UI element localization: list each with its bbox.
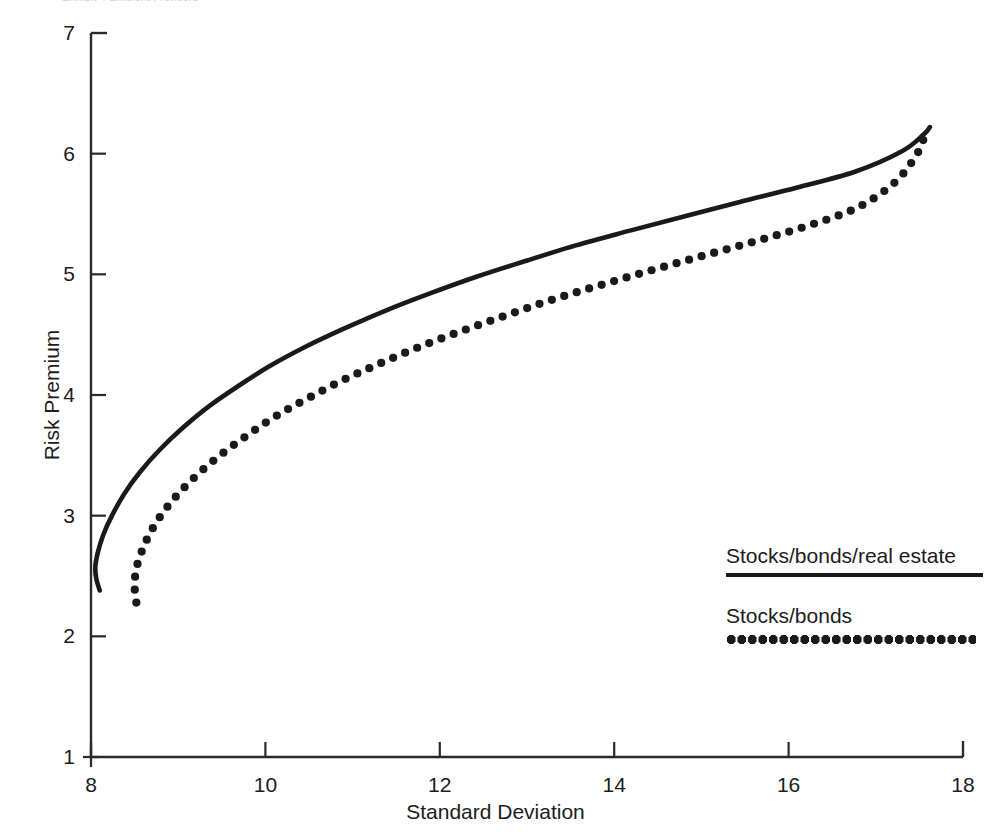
series-marker-dot	[295, 399, 303, 407]
x-axis-tick-label: 12	[420, 773, 460, 797]
series-marker-dot	[365, 364, 373, 372]
series-marker-dot	[353, 369, 361, 377]
x-axis-tick-label: 8	[71, 773, 111, 797]
y-axis-tick-label: 2	[45, 624, 75, 648]
series-marker-dot	[425, 339, 433, 347]
x-axis-tick-label: 10	[245, 773, 285, 797]
series-marker-dot	[180, 483, 188, 491]
series-marker-dot	[660, 263, 668, 271]
series-marker-dot	[723, 245, 731, 253]
series-marker-dot	[635, 270, 643, 278]
series-marker-dot	[143, 536, 151, 544]
series-marker-dot	[437, 334, 445, 342]
series-marker-dot	[698, 252, 706, 260]
series-marker-dot	[914, 148, 922, 156]
series-marker-dot	[785, 227, 793, 235]
series-marker-dot	[401, 349, 409, 357]
series-marker-dot	[149, 524, 157, 532]
series-marker-dot	[377, 359, 385, 367]
series-marker-dot	[835, 211, 843, 219]
series-marker-dot	[209, 457, 217, 465]
legend-swatch-dotted-line	[726, 635, 976, 644]
y-axis-title: Risk Premium	[40, 295, 64, 495]
series-marker-dot	[622, 273, 630, 281]
legend-item-stocks-bonds: Stocks/bonds	[726, 603, 988, 644]
x-axis-tick-label: 14	[594, 773, 634, 797]
series-marker-dot	[273, 412, 281, 420]
series-marker-dot	[172, 493, 180, 501]
series-marker-dot	[760, 235, 768, 243]
series-marker-dot	[798, 224, 806, 232]
series-marker-dot	[548, 296, 556, 304]
y-axis-tick-label: 1	[45, 745, 75, 769]
series-marker-dot	[735, 242, 743, 250]
series-marker-dot	[318, 386, 326, 394]
series-marker-dot	[890, 179, 898, 187]
series-marker-dot	[284, 405, 292, 413]
series-marker-dot	[773, 231, 781, 239]
series-marker-dot	[647, 266, 655, 274]
series-marker-dot	[919, 136, 927, 144]
series-marker-dot	[486, 317, 494, 325]
legend-item-stocks-bonds-real-estate: Stocks/bonds/real estate	[726, 543, 988, 577]
x-axis-tick-label: 16	[769, 773, 809, 797]
series-marker-dot	[262, 418, 270, 426]
series-marker-dot	[132, 598, 140, 606]
series-marker-dot	[462, 325, 470, 333]
series-marker-dot	[535, 300, 543, 308]
series-marker-dot	[190, 474, 198, 482]
series-marker-dot	[240, 433, 248, 441]
y-axis-tick-label: 6	[45, 142, 75, 166]
chart-legend: Stocks/bonds/real estate Stocks/bonds	[726, 543, 988, 644]
series-marker-dot	[511, 308, 519, 316]
y-axis-tick-label: 3	[45, 504, 75, 528]
series-marker-dot	[585, 284, 593, 292]
chart-canvas	[0, 0, 991, 839]
series-marker-dot	[474, 321, 482, 329]
series-marker-dot	[156, 513, 164, 521]
x-axis-tick-label: 18	[943, 773, 983, 797]
series-curve-stocks-bonds-real-estate	[95, 127, 930, 590]
series-marker-dot	[389, 354, 397, 362]
series-marker-dot	[330, 380, 338, 388]
series-marker-dot	[163, 503, 171, 511]
series-marker-dot	[870, 194, 878, 202]
series-marker-dot	[413, 344, 421, 352]
series-marker-dot	[810, 220, 818, 228]
series-marker-dot	[307, 393, 315, 401]
series-marker-dot	[560, 292, 568, 300]
series-marker-dot	[199, 465, 207, 473]
series-marker-dot	[219, 449, 227, 457]
x-axis-title: Standard Deviation	[0, 800, 991, 824]
series-marker-dot	[880, 187, 888, 195]
legend-swatch-solid-line	[726, 573, 983, 577]
series-marker-dot	[858, 201, 866, 209]
series-marker-dot	[251, 426, 259, 434]
y-axis-tick-label: 5	[45, 262, 75, 286]
series-marker-dot	[710, 249, 718, 257]
series-marker-dot	[748, 238, 756, 246]
series-marker-dot	[230, 441, 238, 449]
series-marker-dot	[822, 216, 830, 224]
series-marker-dot	[523, 304, 531, 312]
series-marker-dot	[899, 169, 907, 177]
series-marker-dot	[598, 281, 606, 289]
series-marker-dot	[573, 288, 581, 296]
series-marker-dot	[133, 560, 141, 568]
series-marker-dot	[499, 312, 507, 320]
series-marker-dot	[685, 256, 693, 264]
series-marker-dot	[342, 375, 350, 383]
legend-label-stocks-bonds: Stocks/bonds	[726, 603, 988, 629]
legend-label-stocks-bonds-real-estate: Stocks/bonds/real estate	[726, 543, 988, 569]
y-axis-tick-label: 7	[45, 21, 75, 45]
series-marker-dot	[847, 207, 855, 215]
series-curve-stocks-bonds	[131, 136, 928, 607]
series-marker-dot	[131, 573, 139, 581]
series-marker-dot	[138, 548, 146, 556]
series-group	[95, 127, 930, 607]
series-marker-dot	[450, 330, 458, 338]
series-marker-dot	[907, 159, 915, 167]
series-marker-dot	[672, 259, 680, 267]
series-marker-dot	[610, 277, 618, 285]
chart-figure: 1234567 81012141618 Standard Deviation R…	[0, 0, 991, 839]
